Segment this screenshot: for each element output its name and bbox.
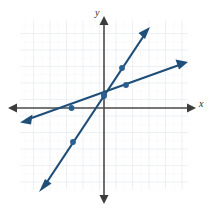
steep-line-point: [70, 139, 76, 145]
shallow-line-point: [123, 82, 129, 88]
x-axis-arrow-right: [187, 104, 196, 113]
y-axis-label: y: [95, 8, 99, 18]
graph-figure: x y: [0, 0, 211, 220]
steep-line-point: [101, 92, 107, 98]
y-axis-arrow-down: [100, 195, 109, 204]
coordinate-plane-svg: [0, 0, 211, 220]
x-axis-label: x: [199, 99, 203, 109]
steep-line-point: [119, 65, 125, 71]
x-axis-arrow-left: [8, 104, 17, 113]
shallow-line-point: [69, 105, 75, 111]
